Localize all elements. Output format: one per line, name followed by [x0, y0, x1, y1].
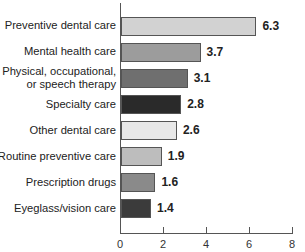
value-label: 3.7 [207, 45, 224, 59]
category-label: Eyeglass/vision care [14, 202, 116, 215]
x-tick-label: 8 [282, 238, 302, 250]
category-label: Routine preventive care [0, 150, 116, 163]
x-tick-label: 4 [196, 238, 216, 250]
bar [121, 69, 188, 88]
bar [121, 199, 151, 218]
category-label: Other dental care [30, 124, 116, 137]
bar [121, 147, 162, 166]
category-label: Specialty care [46, 98, 116, 111]
x-axis-line [120, 233, 293, 234]
x-tick-label: 0 [110, 238, 130, 250]
bar [121, 121, 177, 140]
value-label: 1.4 [157, 201, 174, 215]
bar [121, 95, 181, 114]
x-tick-label: 6 [239, 238, 259, 250]
bar [121, 17, 256, 36]
value-label: 6.3 [262, 19, 279, 33]
x-tick-label: 2 [153, 238, 173, 250]
value-label: 2.8 [187, 97, 204, 111]
x-tick [249, 227, 250, 233]
category-label: Prescription drugs [26, 176, 116, 189]
bar [121, 173, 155, 192]
x-tick [206, 227, 207, 233]
category-label: or speech therapy [26, 78, 116, 91]
category-label: Preventive dental care [5, 19, 116, 32]
value-label: 1.9 [168, 149, 185, 163]
category-label: Mental health care [24, 45, 116, 58]
value-label: 2.6 [183, 123, 200, 137]
category-label: Physical, occupational, [2, 65, 116, 78]
x-tick [163, 227, 164, 233]
value-label: 3.1 [194, 71, 211, 85]
bar [121, 43, 201, 62]
x-tick [292, 227, 293, 233]
value-label: 1.6 [161, 175, 178, 189]
